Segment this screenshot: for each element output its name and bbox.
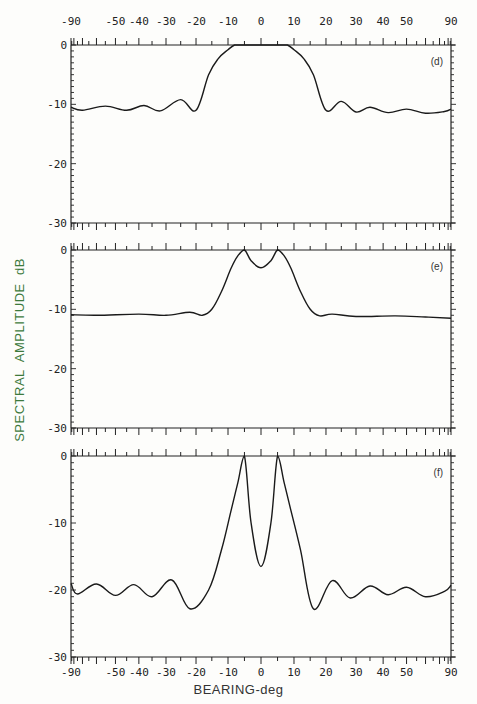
x-tick-label-top: -10 — [218, 15, 238, 28]
y-tick-label: -10 — [47, 98, 67, 111]
y-tick-label: -20 — [47, 158, 67, 171]
y-tick-label: -10 — [47, 517, 67, 530]
y-tick-label: -20 — [47, 584, 67, 597]
panel-tag: (d) — [431, 56, 443, 67]
x-tick-label-bottom: 10 — [287, 666, 300, 679]
x-tick-label-bottom: 0 — [258, 666, 265, 679]
x-tick-label-top: 50 — [400, 15, 413, 28]
y-tick-label: 0 — [60, 39, 67, 52]
x-tick-label-bottom: 40 — [377, 666, 390, 679]
x-tick-label-top: -50 — [106, 15, 126, 28]
x-tick-label-top: 30 — [349, 15, 362, 28]
x-tick-label-top: -40 — [129, 15, 149, 28]
x-tick-label-bottom: -40 — [129, 666, 149, 679]
x-tick-label-top: 0 — [258, 15, 265, 28]
x-tick-label-top: 20 — [319, 15, 332, 28]
x-tick-label-top: 40 — [377, 15, 390, 28]
spectrum-curve-d — [71, 45, 451, 113]
x-tick-label-top: 10 — [287, 15, 300, 28]
x-tick-label-top: -90 — [61, 15, 81, 28]
y-tick-label: -10 — [47, 303, 67, 316]
y-tick-label: -30 — [47, 651, 67, 664]
x-tick-label-bottom: 20 — [319, 666, 332, 679]
y-tick-label: -30 — [47, 422, 67, 435]
x-tick-label-bottom: 90 — [444, 666, 457, 679]
spectrum-curve-e — [71, 250, 451, 318]
x-tick-label-bottom: -30 — [156, 666, 176, 679]
spectrum-curve-f — [71, 456, 451, 609]
y-axis-title: SPECTRAL AMPLITUDE dB — [12, 258, 27, 442]
x-tick-label-top: 90 — [444, 15, 457, 28]
x-tick-label-top: -20 — [186, 15, 206, 28]
x-tick-label-bottom: -10 — [218, 666, 238, 679]
y-tick-label: 0 — [60, 244, 67, 257]
x-tick-label-bottom: 50 — [400, 666, 413, 679]
panel-tag: (f) — [434, 467, 443, 478]
x-tick-label-bottom: 30 — [349, 666, 362, 679]
panel-tag: (e) — [431, 261, 443, 272]
y-tick-label: 0 — [60, 450, 67, 463]
x-tick-label-bottom: -50 — [106, 666, 126, 679]
chart-figure: 0-10-20-30(d)0-10-20-30(e)0-10-20-30(f)-… — [0, 0, 477, 704]
x-axis-title: BEARING-deg — [0, 682, 477, 697]
y-tick-label: -20 — [47, 363, 67, 376]
x-tick-label-top: -30 — [156, 15, 176, 28]
y-tick-label: -30 — [47, 217, 67, 230]
x-tick-label-bottom: -90 — [61, 666, 81, 679]
x-tick-label-bottom: -20 — [186, 666, 206, 679]
